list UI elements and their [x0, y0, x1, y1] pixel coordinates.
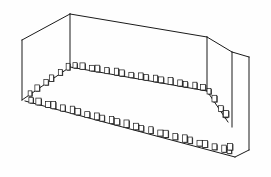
upper-ledge-right-drop-segment-block-2 [212, 95, 218, 102]
upper-ledge-back-segment-block-17 [201, 84, 207, 90]
lower-floor-front-row-block-16 [149, 127, 154, 134]
lower-floor-front-row-block-2 [36, 98, 42, 105]
upper-ledge-back-segment-block-2 [80, 63, 86, 70]
lower-floor-front-row-block-25 [222, 145, 227, 153]
upper-ledge-back-segment-block-15 [183, 82, 188, 88]
corner-marker-right-ledge [224, 111, 230, 118]
upper-ledge-back-segment-block-6 [114, 68, 119, 76]
upper-ledge-left-segment-block-4 [49, 75, 54, 82]
lower-floor-front-row-block-18 [163, 130, 169, 138]
corner-marker-right-floor [228, 144, 234, 151]
upper-ledge-back-segment-block-3 [90, 65, 96, 71]
upper-ledge-back-segment-block-7 [119, 70, 125, 77]
lower-floor-front-row-block-23 [202, 141, 208, 148]
lower-floor-front-row-block-1 [29, 97, 34, 103]
upper-ledge-back-segment-block-9 [138, 73, 143, 80]
upper-ledge-back-segment-block-16 [193, 82, 198, 89]
lower-floor-front-row-block-5 [61, 105, 66, 112]
lower-floor-front-row-block-15 [139, 125, 144, 131]
lower-floor-front-row-block-6 [70, 106, 75, 114]
upper-ledge-left-segment-block-2 [35, 85, 40, 92]
upper-ledge-back-segment-block-5 [105, 68, 110, 74]
lower-floor-front-row-block-7 [75, 108, 81, 115]
lower-floor-front-row-block-11 [110, 116, 115, 124]
lower-floor-front-row-block-21 [188, 137, 193, 144]
upper-ledge-back-segment-block-10 [144, 75, 149, 81]
upper-ledge-back-segment-block-8 [129, 72, 135, 78]
upper-ledge-back-segment-block-1 [73, 63, 78, 69]
lower-floor-front-row-block-12 [114, 119, 120, 126]
lower-floor-front-row-block-24 [212, 144, 218, 151]
lower-floor-front-row-block-13 [124, 120, 130, 128]
lower-floor-front-row-block-14 [134, 123, 140, 130]
upper-ledge-left-segment-block-1 [28, 91, 33, 97]
lower-floor-front-row-block-8 [85, 112, 91, 118]
lower-floor-front-row-block-19 [173, 134, 179, 141]
upper-ledge-left-segment-block-5 [58, 70, 63, 76]
lower-floor-front-row-block-20 [183, 135, 188, 143]
upper-ledge-back-segment-block-13 [168, 77, 174, 85]
figure-root [0, 0, 271, 177]
upper-ledge-back-segment-block-4 [95, 65, 100, 72]
upper-ledge-back-segment-block-12 [158, 77, 164, 83]
upper-ledge-left-segment-block-3 [44, 80, 49, 86]
lower-floor-front-row-block-4 [51, 102, 57, 110]
lower-floor-front-row-block-9 [94, 113, 100, 120]
upper-ledge-right-drop-segment-block-1 [207, 89, 212, 95]
wireframe-enclosure-drawing [0, 0, 271, 177]
upper-ledge-back-segment-block-14 [178, 80, 183, 87]
upper-ledge-back-segment-block-11 [154, 75, 159, 82]
lower-floor-front-row-block-10 [100, 115, 105, 122]
upper-ledge-left-segment-block-6 [66, 63, 71, 70]
lower-floor-front-row-block-3 [46, 101, 52, 108]
